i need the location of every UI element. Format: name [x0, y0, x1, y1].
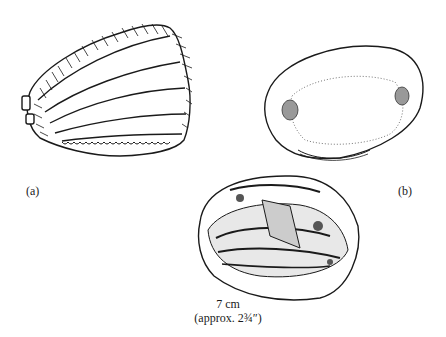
panel-label-a: (a) — [26, 184, 39, 199]
panel-label-b: (b) — [398, 184, 412, 199]
scale-imperial: (approx. 2¾″) — [168, 311, 288, 325]
scale-caption: 7 cm (approx. 2¾″) — [168, 297, 288, 325]
scale-metric: 7 cm — [168, 297, 288, 311]
shell-b-interior — [265, 46, 423, 160]
shell-a-exterior — [22, 24, 192, 156]
clam-with-soft-body — [199, 176, 359, 300]
illustration-canvas — [0, 0, 446, 337]
